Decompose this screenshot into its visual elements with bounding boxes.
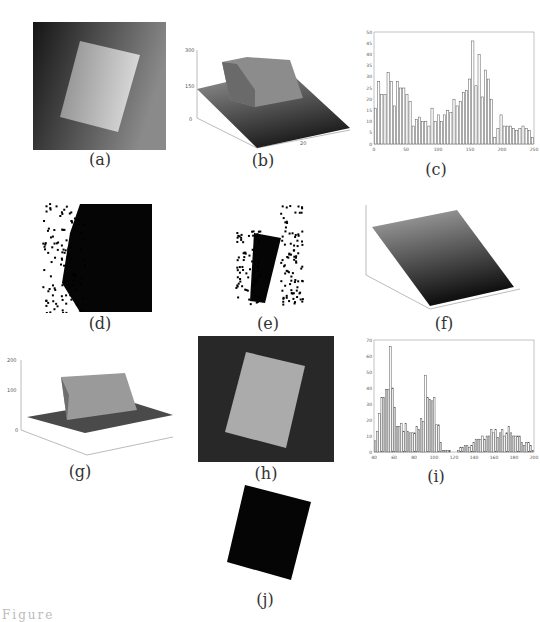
svg-text:60: 60 [391,455,397,460]
caption-g: (g) [60,462,100,481]
svg-text:100: 100 [430,455,439,460]
surface-plot-f [362,205,522,315]
caption-c: (c) [416,160,456,179]
caption-b: (b) [243,151,283,170]
panel-d-mask [40,203,155,313]
original-image [33,22,166,150]
caption-a: (a) [80,150,120,169]
svg-text:180: 180 [510,455,519,460]
svg-text:50: 50 [403,147,409,152]
panel-h-corrected-image [198,336,334,462]
panel-c-histogram: 05010015020025005101520253035404550 [360,28,540,158]
caption-d: (d) [80,314,120,333]
svg-text:45: 45 [366,41,372,46]
svg-text:0: 0 [369,142,372,147]
svg-text:160: 160 [490,455,499,460]
panel-e-mask [230,205,310,310]
surface-plot-b [185,40,360,152]
figure-footer-caption: Figure [2,608,54,622]
svg-text:35: 35 [366,63,372,68]
svg-text:20: 20 [366,418,372,423]
svg-text:120: 120 [450,455,459,460]
svg-text:10: 10 [366,119,372,124]
svg-text:15: 15 [366,108,372,113]
panel-a-original-image [33,22,166,150]
mask-image-e [230,205,310,310]
svg-text:140: 140 [470,455,479,460]
histogram-i: 406080100120140160180200010203040506070 [360,336,540,466]
svg-text:200: 200 [530,455,539,460]
svg-text:0: 0 [369,450,372,455]
svg-text:200: 200 [498,147,507,152]
svg-text:70: 70 [366,338,372,343]
svg-text:80: 80 [411,455,417,460]
svg-text:20: 20 [366,97,372,102]
svg-text:50: 50 [366,30,372,35]
svg-text:25: 25 [366,86,372,91]
panel-f-plane [362,205,522,315]
caption-f: (f) [424,314,464,333]
caption-i: (i) [416,467,456,486]
svg-text:40: 40 [366,386,372,391]
histogram-c: 05010015020025005101520253035404550 [360,28,540,158]
corrected-image [198,336,334,462]
panel-g-surface: 200 100 0 [5,355,180,460]
panel-b-surface-plot: 300 150 0 20 [185,40,360,152]
panel-i-histogram: 406080100120140160180200010203040506070 [360,336,540,466]
svg-text:100: 100 [434,147,443,152]
svg-text:30: 30 [366,74,372,79]
svg-text:50: 50 [366,370,372,375]
svg-text:30: 30 [366,402,372,407]
svg-text:40: 40 [366,52,372,57]
svg-text:150: 150 [466,147,475,152]
segmented-object-j [215,480,315,585]
svg-text:0: 0 [373,147,376,152]
svg-text:250: 250 [530,147,539,152]
svg-text:60: 60 [366,354,372,359]
svg-text:5: 5 [369,130,372,135]
svg-text:40: 40 [371,455,377,460]
panel-j-segmentation [215,480,315,585]
caption-j: (j) [245,590,285,609]
mask-image-d [40,203,155,313]
svg-text:10: 10 [366,434,372,439]
caption-e: (e) [248,314,288,333]
surface-plot-g [5,355,180,460]
